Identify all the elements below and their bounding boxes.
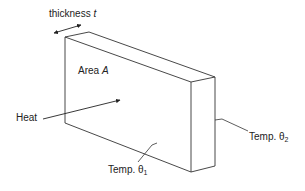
heat-arrow (43, 100, 120, 119)
temp2-label: Temp. θ2 (249, 132, 288, 143)
slab-diagram (0, 0, 305, 191)
area-label: Area A (78, 66, 109, 76)
thickness-label: thickness t (49, 9, 96, 19)
thickness-arrow (54, 25, 81, 33)
heat-label: Heat (16, 113, 37, 123)
side-face (191, 77, 215, 172)
temp2-leader (215, 119, 248, 131)
front-face (65, 37, 191, 172)
temp1-label: Temp. θ1 (108, 165, 147, 176)
